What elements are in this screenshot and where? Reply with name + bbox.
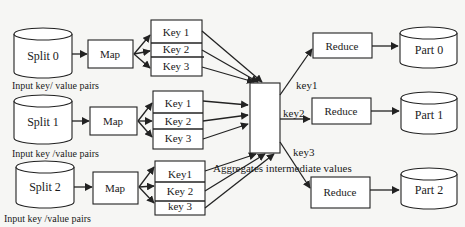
split-0-label: Split 0	[27, 49, 59, 63]
edge-label-key3: key3	[293, 146, 315, 158]
part-1-label: Part 1	[415, 108, 443, 122]
reduce-2-label: Reduce	[324, 186, 357, 198]
key-2-2-label: Key 2	[167, 185, 194, 197]
map-1-label: Map	[103, 115, 124, 127]
aggregate-label: Aggregates intermediate values	[213, 162, 352, 174]
key-1-1-label: Key 1	[165, 97, 192, 109]
key-1-2-label: Key 2	[165, 115, 192, 127]
aggregate-box	[250, 83, 280, 153]
edge-label-key2: key2	[283, 107, 304, 119]
reduce-1-label: Reduce	[325, 105, 358, 117]
mapreduce-diagram: Split 0 Map Key 1 Key 2 Key 3 Input key/…	[0, 0, 465, 227]
key-2-1-label: Key1	[168, 168, 192, 180]
part-0-label: Part 0	[415, 43, 443, 57]
map-2-label: Map	[105, 182, 126, 194]
key-1-3-label: Key 3	[165, 132, 192, 144]
part-2-label: Part 2	[415, 183, 443, 197]
split-2-label: Split 2	[29, 180, 61, 194]
input-label-0: Input key/ value pairs	[12, 80, 99, 91]
edge-label-key1: key1	[296, 79, 317, 91]
map-0-label: Map	[100, 48, 121, 60]
key-0-2-label: Key 2	[163, 43, 190, 55]
reduce-0-label: Reduce	[326, 40, 359, 52]
input-label-2: Input key /value pairs	[4, 213, 91, 224]
key-2-3-label: key 3	[168, 200, 193, 212]
key-0-1-label: Key 1	[163, 26, 190, 38]
input-label-1: Input key /value pairs	[12, 148, 99, 159]
split-1-label: Split 1	[27, 115, 59, 129]
key-0-3-label: Key 3	[163, 60, 190, 72]
